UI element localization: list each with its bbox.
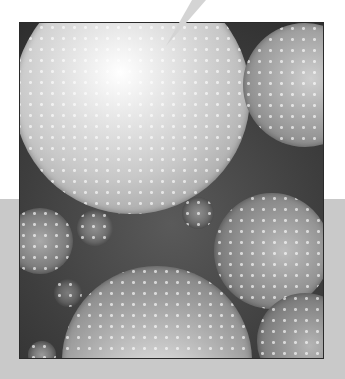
star-speckles	[19, 208, 73, 274]
star-speckles	[19, 22, 250, 214]
star-speckles	[214, 193, 324, 309]
small-bubble-left-lower	[54, 279, 82, 307]
top-right-bubble	[243, 23, 324, 147]
right-mid-bubble	[214, 193, 324, 309]
star-speckles	[54, 279, 82, 307]
star-speckles	[28, 341, 56, 359]
small-bubble-center	[182, 197, 214, 229]
star-speckles	[182, 197, 214, 229]
small-bubble-left-center	[77, 210, 113, 246]
large-bright-bubble	[19, 22, 250, 214]
star-speckles	[77, 210, 113, 246]
bubble-illustration-frame	[19, 22, 324, 359]
left-mid-bubble	[19, 208, 73, 274]
small-bubble-bottom-left	[28, 341, 56, 359]
star-speckles	[243, 23, 324, 147]
